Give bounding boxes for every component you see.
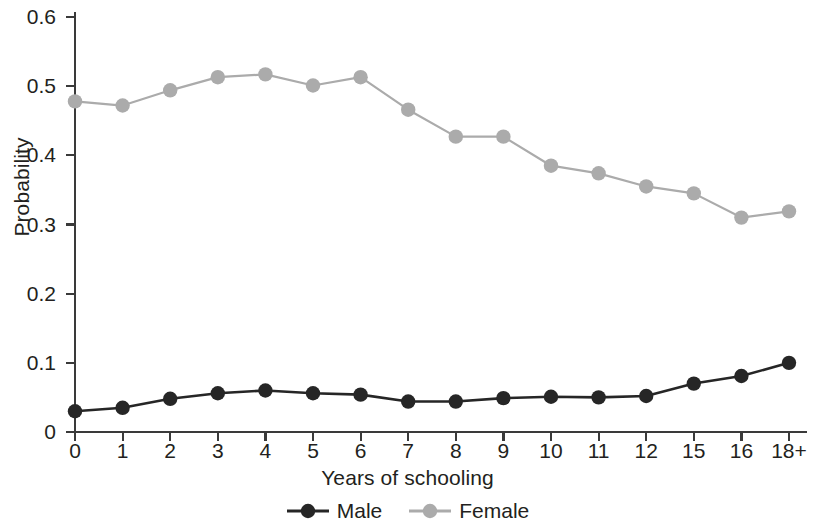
data-point bbox=[544, 159, 558, 173]
data-point bbox=[639, 179, 653, 193]
series-female bbox=[68, 67, 796, 225]
legend-marker-icon bbox=[286, 501, 330, 521]
axis-lines bbox=[66, 12, 807, 441]
data-point bbox=[306, 78, 320, 92]
data-point bbox=[591, 390, 605, 404]
x-axis-tick-label: 4 bbox=[260, 440, 272, 461]
legend-item-female[interactable]: Female bbox=[408, 500, 529, 521]
data-point bbox=[306, 386, 320, 400]
x-axis-title: Years of schooling bbox=[0, 466, 815, 490]
x-axis-tick-label: 18+ bbox=[771, 440, 807, 461]
data-point bbox=[591, 166, 605, 180]
x-axis-tick-label: 11 bbox=[588, 440, 610, 461]
data-point bbox=[782, 356, 796, 370]
data-point bbox=[163, 392, 177, 406]
data-point bbox=[544, 390, 558, 404]
data-point bbox=[496, 391, 510, 405]
data-point bbox=[115, 401, 129, 415]
legend-label: Female bbox=[459, 500, 529, 521]
data-point bbox=[687, 376, 701, 390]
x-axis-tick-label: 12 bbox=[635, 440, 658, 461]
data-point bbox=[353, 70, 367, 84]
data-point bbox=[258, 67, 272, 81]
data-point bbox=[734, 210, 748, 224]
x-axis-tick-label: 2 bbox=[164, 440, 176, 461]
data-point bbox=[211, 70, 225, 84]
data-point bbox=[496, 129, 510, 143]
x-axis-tick-label: 15 bbox=[682, 440, 705, 461]
data-point bbox=[258, 383, 272, 397]
data-point bbox=[211, 386, 225, 400]
series-male bbox=[68, 356, 796, 419]
data-point bbox=[782, 204, 796, 218]
data-point bbox=[353, 387, 367, 401]
data-point bbox=[401, 102, 415, 116]
data-point bbox=[734, 369, 748, 383]
chart-legend: MaleFemale bbox=[0, 500, 815, 521]
x-axis-tick-label: 16 bbox=[730, 440, 753, 461]
x-axis-tick-label: 6 bbox=[355, 440, 367, 461]
data-point bbox=[449, 394, 463, 408]
data-point bbox=[687, 186, 701, 200]
x-axis-tick-label: 9 bbox=[498, 440, 510, 461]
x-axis-tick-label: 8 bbox=[450, 440, 462, 461]
x-axis-tick-label: 3 bbox=[212, 440, 224, 461]
legend-marker-icon bbox=[408, 501, 452, 521]
series-line-male bbox=[75, 363, 789, 411]
data-series-group bbox=[68, 67, 796, 418]
x-axis-tick-label: 10 bbox=[539, 440, 562, 461]
x-axis-tick-label: 0 bbox=[69, 440, 81, 461]
series-line-female bbox=[75, 74, 789, 217]
data-point bbox=[401, 394, 415, 408]
data-point bbox=[68, 404, 82, 418]
legend-label: Male bbox=[337, 500, 383, 521]
data-point bbox=[115, 98, 129, 112]
data-point bbox=[68, 94, 82, 108]
data-point bbox=[449, 129, 463, 143]
x-axis-tick-label: 7 bbox=[402, 440, 414, 461]
data-point bbox=[639, 389, 653, 403]
chart-figure: Probability 00.10.20.30.40.50.6 01234567… bbox=[0, 0, 815, 532]
data-point bbox=[163, 83, 177, 97]
x-axis-tick-label: 1 bbox=[117, 440, 129, 461]
legend-item-male[interactable]: Male bbox=[286, 500, 383, 521]
x-axis-tick-label: 5 bbox=[307, 440, 319, 461]
